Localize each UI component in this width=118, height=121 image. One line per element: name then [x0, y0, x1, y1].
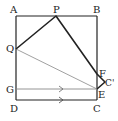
label-a: A: [9, 4, 18, 15]
fold-outline: [16, 16, 105, 89]
label-b: B: [93, 4, 100, 15]
label-c: C: [93, 103, 101, 114]
label-c-prime: C': [105, 78, 114, 88]
label-q: Q: [6, 43, 14, 54]
label-p: P: [53, 4, 60, 15]
folded-square-diagram: A P B Q F C' G E D C: [0, 0, 118, 121]
label-e: E: [98, 89, 105, 100]
label-g: G: [6, 84, 14, 95]
segment-qe: [16, 49, 97, 89]
label-d: D: [10, 103, 18, 114]
